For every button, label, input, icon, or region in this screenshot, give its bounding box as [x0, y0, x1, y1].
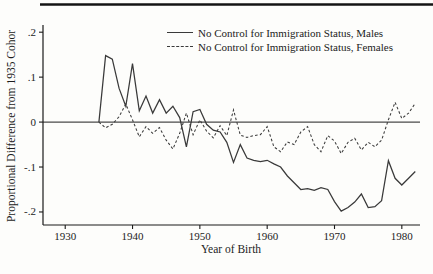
males-series-line [99, 56, 415, 212]
x-tick-label-1930: 1930 [54, 230, 77, 242]
legend-label-males: No Control for Immigration Status, Males [198, 27, 383, 39]
y-tick-label--.2: -.2 [24, 205, 36, 217]
x-axis-title: Year of Birth [201, 243, 261, 255]
females-series-line [99, 102, 415, 153]
dashed-line-swatch [167, 46, 193, 47]
x-tick-label-1960: 1960 [256, 230, 279, 242]
legend-row-females: No Control for Immigration Status, Femal… [167, 40, 393, 53]
y-tick-label--.1: -.1 [24, 161, 36, 173]
x-tick-label-1950: 1950 [189, 230, 212, 242]
x-tick-label-1980: 1980 [391, 230, 414, 242]
y-tick-label-.1: .1 [28, 71, 36, 83]
legend-label-females: No Control for Immigration Status, Femal… [198, 41, 393, 53]
x-tick-label-1970: 1970 [324, 230, 347, 242]
x-tick-label-1940: 1940 [122, 230, 145, 242]
solid-line-swatch [167, 32, 193, 33]
y-axis-title: Proportional Difference from 1935 Cohor [5, 30, 17, 222]
y-tick-label-.2: .2 [28, 26, 36, 38]
y-tick-label-0: 0 [31, 116, 37, 128]
figure-container: .2.10-.1-.2193019401950196019701980 No C… [0, 0, 433, 274]
chart-legend: No Control for Immigration Status, Males… [167, 26, 393, 53]
legend-row-males: No Control for Immigration Status, Males [167, 26, 393, 39]
